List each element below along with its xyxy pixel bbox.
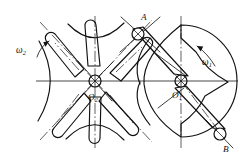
label-omega1-subscript: 1 bbox=[209, 61, 212, 68]
hub-o1 bbox=[175, 75, 187, 87]
label-point-a: A bbox=[140, 12, 147, 22]
pin-joint-a bbox=[120, 17, 160, 52]
label-point-b: B bbox=[223, 144, 229, 154]
label-center-o2: O2 bbox=[88, 92, 99, 103]
slot-wall-outer bbox=[85, 20, 100, 66]
hub-o2 bbox=[89, 75, 101, 87]
slot-wall-outer bbox=[99, 92, 139, 136]
driven-slot-top bbox=[85, 20, 100, 66]
label-omega2: ω2 bbox=[16, 45, 27, 56]
slot-centerline-lower-left bbox=[40, 81, 95, 140]
driven-slot-upper-left bbox=[45, 32, 84, 77]
slot-axis bbox=[57, 94, 79, 122]
spoke-upper-left bbox=[78, 61, 93, 78]
figure-root: ω2 ω1 A B O2 O1 bbox=[0, 0, 249, 162]
geneva-mechanism-diagram: ω2 ω1 A B O2 O1 bbox=[0, 0, 249, 162]
label-o1-subscript: 1 bbox=[179, 94, 182, 101]
spoke-lower-right bbox=[97, 84, 112, 101]
label-omega2-subscript: 2 bbox=[23, 49, 27, 56]
slot-axis bbox=[110, 95, 133, 123]
driven-scallop-right-lower bbox=[137, 82, 150, 125]
pin-joint-b bbox=[206, 120, 233, 148]
slot-wall-outer bbox=[45, 32, 84, 77]
label-center-o1: O1 bbox=[172, 90, 182, 101]
driven-slot-lower-left bbox=[52, 93, 91, 138]
driven-slot-lower-right bbox=[99, 92, 139, 136]
slot-wall-outer bbox=[52, 93, 91, 138]
